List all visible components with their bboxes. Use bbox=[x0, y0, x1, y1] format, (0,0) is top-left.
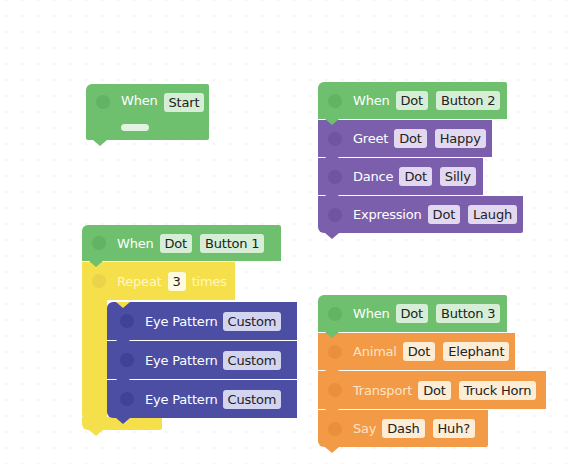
repeat-count-input[interactable]: 3 bbox=[168, 272, 186, 291]
repeat-suffix-label: times bbox=[192, 274, 227, 289]
value-pill[interactable]: Silly bbox=[440, 167, 476, 186]
block-label: When bbox=[121, 93, 158, 108]
block-handle-icon bbox=[120, 353, 134, 367]
robot-pill[interactable]: Dot bbox=[403, 342, 435, 361]
repeat-block[interactable]: Repeat 3 times bbox=[82, 262, 235, 300]
block-notch-icon bbox=[325, 119, 339, 125]
block-notch-icon bbox=[116, 340, 130, 346]
block-handle-icon bbox=[120, 392, 134, 406]
block-notch-icon bbox=[116, 302, 130, 308]
block-label: When bbox=[117, 236, 154, 251]
robot-pill[interactable]: Dot bbox=[396, 304, 428, 323]
block-notch-icon bbox=[116, 379, 130, 385]
block-handle-icon bbox=[328, 208, 342, 222]
block-notch-icon bbox=[325, 157, 339, 163]
when-start-block[interactable]: When Start bbox=[86, 84, 209, 140]
trigger-pill[interactable]: Button 3 bbox=[436, 304, 500, 323]
block-notch-icon bbox=[93, 140, 107, 146]
when-button1-block[interactable]: When Dot Button 1 bbox=[82, 225, 281, 261]
block-handle-icon bbox=[328, 345, 342, 359]
robot-pill[interactable]: Dot bbox=[160, 234, 192, 253]
block-label: Eye Pattern bbox=[145, 314, 218, 329]
say-block[interactable]: Say Dash Huh? bbox=[318, 410, 488, 447]
block-handle-icon bbox=[328, 170, 342, 184]
block-label: Dance bbox=[353, 169, 393, 184]
block-label: Transport bbox=[353, 383, 412, 398]
block-label: Eye Pattern bbox=[145, 392, 218, 407]
block-handle-icon bbox=[92, 274, 106, 288]
dance-block[interactable]: Dance Dot Silly bbox=[318, 158, 483, 195]
eye-pattern-block-2[interactable]: Eye Pattern Custom bbox=[107, 341, 297, 379]
block-handle-icon bbox=[96, 95, 110, 109]
robot-pill[interactable]: Dot bbox=[399, 167, 431, 186]
block-label: Say bbox=[353, 421, 376, 436]
animal-sound-block[interactable]: Animal Dot Elephant bbox=[318, 333, 515, 370]
block-handle-icon bbox=[328, 307, 342, 321]
robot-pill[interactable]: Dash bbox=[382, 419, 424, 438]
greet-block[interactable]: Greet Dot Happy bbox=[318, 120, 492, 157]
block-notch-icon bbox=[325, 332, 339, 338]
empty-slot-bar bbox=[121, 124, 149, 131]
block-notch-icon bbox=[325, 233, 339, 239]
trigger-pill[interactable]: Button 1 bbox=[200, 234, 264, 253]
robot-pill[interactable]: Dot bbox=[394, 129, 426, 148]
block-label: Repeat bbox=[117, 274, 162, 289]
transport-sound-block[interactable]: Transport Dot Truck Horn bbox=[318, 371, 546, 409]
block-notch-icon bbox=[325, 195, 339, 201]
block-handle-icon bbox=[92, 236, 106, 250]
block-notch-icon bbox=[325, 447, 339, 453]
value-pill[interactable]: Huh? bbox=[433, 419, 475, 438]
eye-pattern-block-1[interactable]: Eye Pattern Custom bbox=[107, 302, 297, 340]
trigger-pill[interactable]: Button 2 bbox=[436, 91, 500, 110]
block-notch-icon bbox=[89, 430, 103, 436]
expression-block[interactable]: Expression Dot Laugh bbox=[318, 196, 523, 233]
robot-pill[interactable]: Dot bbox=[396, 91, 428, 110]
block-handle-icon bbox=[328, 94, 342, 108]
block-handle-icon bbox=[120, 314, 134, 328]
value-pill[interactable]: Elephant bbox=[443, 342, 509, 361]
block-notch-icon bbox=[325, 370, 339, 376]
when-button2-block[interactable]: When Dot Button 2 bbox=[318, 82, 507, 119]
block-label: Eye Pattern bbox=[145, 353, 218, 368]
value-pill[interactable]: Truck Horn bbox=[459, 381, 537, 400]
block-label: Greet bbox=[353, 131, 388, 146]
block-label: Animal bbox=[353, 344, 397, 359]
trigger-pill[interactable]: Start bbox=[164, 93, 205, 112]
value-pill[interactable]: Custom bbox=[223, 351, 282, 370]
block-label: Expression bbox=[353, 207, 422, 222]
value-pill[interactable]: Happy bbox=[435, 129, 486, 148]
block-notch-icon bbox=[89, 261, 103, 267]
eye-pattern-block-3[interactable]: Eye Pattern Custom bbox=[107, 380, 297, 418]
block-notch-icon bbox=[116, 418, 130, 424]
value-pill[interactable]: Laugh bbox=[468, 205, 517, 224]
block-label: When bbox=[353, 306, 390, 321]
robot-pill[interactable]: Dot bbox=[428, 205, 460, 224]
value-pill[interactable]: Custom bbox=[223, 312, 282, 331]
block-notch-icon bbox=[325, 409, 339, 415]
block-handle-icon bbox=[328, 422, 342, 436]
block-label: When bbox=[353, 93, 390, 108]
block-handle-icon bbox=[328, 383, 342, 397]
value-pill[interactable]: Custom bbox=[223, 390, 282, 409]
when-button3-block[interactable]: When Dot Button 3 bbox=[318, 295, 507, 332]
robot-pill[interactable]: Dot bbox=[418, 381, 450, 400]
block-handle-icon bbox=[328, 132, 342, 146]
